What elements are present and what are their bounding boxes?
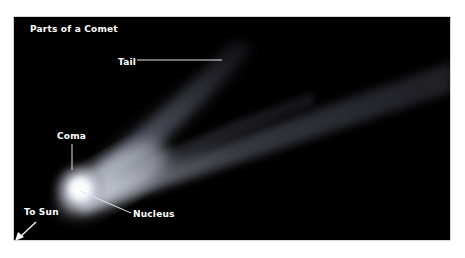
comet-diagram-panel: Parts of a Comet Tail Coma Nucleus To Su… xyxy=(13,16,451,241)
nucleus xyxy=(70,179,90,199)
to-sun-label: To Sun xyxy=(24,208,59,217)
to-sun-arrow-icon xyxy=(15,222,36,241)
coma-label: Coma xyxy=(57,132,86,141)
comet-illustration xyxy=(14,17,451,241)
tail-label: Tail xyxy=(118,58,136,67)
nucleus-label: Nucleus xyxy=(133,210,175,219)
diagram-title: Parts of a Comet xyxy=(30,25,118,34)
